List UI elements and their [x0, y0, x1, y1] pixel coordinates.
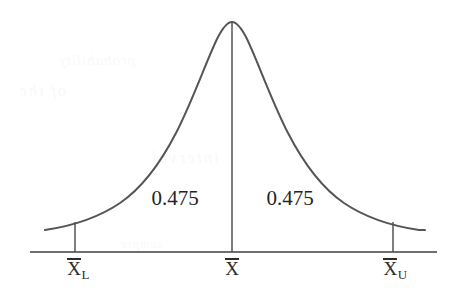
- curve-group: [45, 22, 425, 230]
- axis-label-upper-limit: X U: [365, 258, 425, 278]
- overbar-icon: [67, 258, 81, 260]
- probability-label-right: 0.475: [255, 188, 325, 209]
- mean-base: X: [225, 258, 239, 279]
- upper-limit-base: X: [383, 258, 397, 279]
- normal-curve-path: [45, 22, 425, 230]
- overbar-icon: [225, 258, 239, 260]
- lower-limit-variable: X: [67, 258, 81, 278]
- probability-label-left: 0.475: [140, 188, 210, 209]
- upper-limit-subscript: U: [398, 267, 407, 282]
- upper-limit-variable: X: [383, 258, 397, 278]
- overbar-icon: [383, 258, 397, 260]
- distribution-figure: probability of the interval sample 0.475…: [0, 0, 462, 300]
- lower-limit-subscript: L: [81, 267, 89, 282]
- mean-variable: X: [225, 258, 239, 278]
- marker-lines-group: [75, 23, 393, 252]
- axis-label-mean: X: [202, 258, 262, 278]
- axis-label-lower-limit: X L: [48, 258, 108, 278]
- distribution-plot: [0, 0, 462, 300]
- lower-limit-base: X: [67, 258, 81, 279]
